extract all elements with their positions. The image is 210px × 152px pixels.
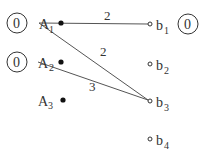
svg-text:b: b: [156, 95, 163, 110]
svg-text:b: b: [156, 133, 163, 148]
svg-text:2: 2: [49, 62, 54, 73]
svg-text:4: 4: [164, 140, 169, 151]
svg-text:3: 3: [48, 100, 53, 111]
edge-weight-a1-b1: 2: [104, 8, 111, 23]
value-circle-a2: 0: [7, 52, 27, 72]
node-label-a2: A 2: [38, 56, 54, 73]
svg-text:1: 1: [164, 25, 169, 36]
svg-text:0: 0: [184, 17, 191, 32]
node-dot-a1: [58, 20, 63, 25]
node-dot-a3: [60, 97, 65, 102]
node-label-a3: A 3: [38, 94, 53, 111]
node-label-a1: A 1: [39, 17, 54, 35]
value-circle-a1: 0: [7, 13, 27, 33]
node-label-b3: b 3: [156, 95, 169, 113]
node-dot-b4: [148, 137, 152, 141]
edge-weight-a2-b3: 3: [89, 79, 96, 94]
svg-text:A: A: [38, 56, 49, 71]
node-label-b1: b 1: [156, 18, 169, 36]
node-label-b4: b 4: [156, 133, 169, 151]
svg-text:2: 2: [164, 65, 169, 76]
node-label-b2: b 2: [156, 58, 169, 76]
node-dot-a2: [58, 59, 63, 64]
svg-text:b: b: [156, 18, 163, 33]
node-dot-b3: [148, 99, 152, 103]
edge-weight-a1-b3: 2: [100, 44, 107, 59]
svg-text:0: 0: [13, 55, 20, 70]
svg-text:0: 0: [13, 16, 20, 31]
node-dot-b1: [148, 22, 152, 26]
node-dot-b2: [148, 62, 152, 66]
bipartite-graph: 2 2 3 0 0 A 1 A 2 A 3 b 1 b 2 b 3: [0, 0, 210, 152]
svg-text:1: 1: [49, 24, 54, 35]
value-circle-b1: 0: [178, 14, 198, 34]
svg-text:b: b: [156, 58, 163, 73]
svg-text:3: 3: [164, 102, 169, 113]
edge-a1-b1: [39, 23, 148, 24]
